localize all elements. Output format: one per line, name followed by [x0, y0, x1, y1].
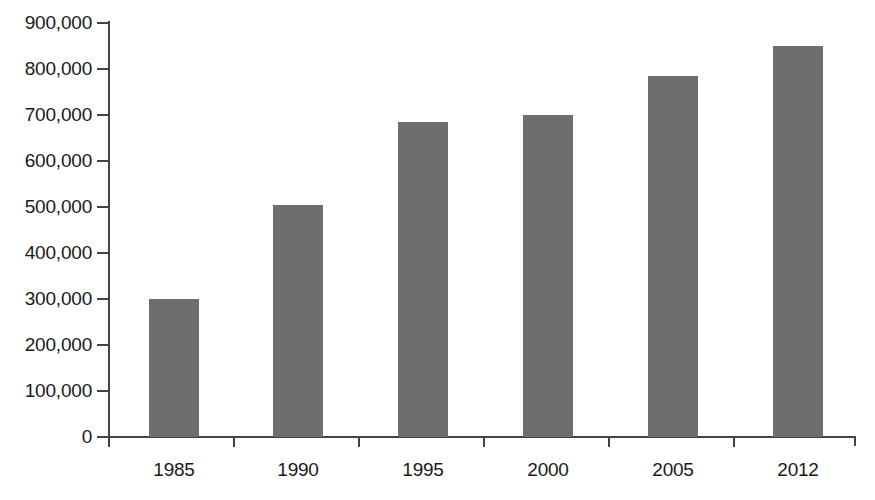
y-axis-label-0: 0 [0, 427, 92, 446]
x-axis-tick-5 [733, 437, 735, 447]
bar-2005 [648, 76, 698, 437]
y-axis-tick-100000 [97, 390, 109, 392]
y-axis-tick-600000 [97, 160, 109, 162]
y-axis-label-700000: 700,000 [0, 105, 92, 124]
bar-1995 [398, 122, 448, 437]
y-axis-tick-900000 [97, 22, 109, 24]
y-axis-tick-300000 [97, 298, 109, 300]
x-axis-tick-1 [233, 437, 235, 447]
bar-chart: 900,000 800,000 700,000 600,000 500,000 … [0, 0, 875, 500]
y-axis-tick-500000 [97, 206, 109, 208]
x-axis-tick-3 [483, 437, 485, 447]
y-axis-label-100000: 100,000 [0, 381, 92, 400]
y-axis-label-200000: 200,000 [0, 335, 92, 354]
y-axis-tick-800000 [97, 68, 109, 70]
y-axis-line [108, 21, 110, 439]
x-axis-label-2012: 2012 [743, 459, 853, 481]
x-axis-label-1985: 1985 [119, 459, 229, 481]
x-axis-label-2005: 2005 [618, 459, 728, 481]
y-axis-label-400000: 400,000 [0, 243, 92, 262]
y-axis-tick-700000 [97, 114, 109, 116]
y-axis-label-800000: 800,000 [0, 59, 92, 78]
bar-2012 [773, 46, 823, 437]
bar-1985 [149, 299, 199, 437]
y-axis-label-600000: 600,000 [0, 151, 92, 170]
x-axis-line [108, 436, 856, 438]
y-axis-label-300000: 300,000 [0, 289, 92, 308]
x-axis-label-1990: 1990 [243, 459, 353, 481]
bar-1990 [273, 205, 323, 437]
y-axis-label-500000: 500,000 [0, 197, 92, 216]
bar-2000 [523, 115, 573, 437]
y-axis-tick-400000 [97, 252, 109, 254]
x-axis-label-2000: 2000 [493, 459, 603, 481]
x-axis-tick-0 [108, 437, 110, 447]
x-axis-tick-4 [608, 437, 610, 447]
x-axis-label-1995: 1995 [368, 459, 478, 481]
y-axis-label-900000: 900,000 [0, 13, 92, 32]
y-axis-tick-200000 [97, 344, 109, 346]
x-axis-right-cap [854, 436, 856, 446]
x-axis-tick-2 [358, 437, 360, 447]
